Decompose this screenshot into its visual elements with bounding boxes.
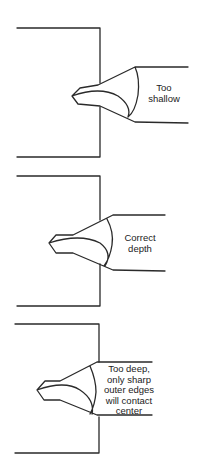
workpiece-outline (15, 417, 99, 453)
workpiece-outline (17, 264, 100, 306)
label-line: Correct (118, 233, 162, 244)
label-correct-depth: Correct depth (118, 233, 162, 254)
label-line: Too deep, (100, 364, 158, 375)
label-line: Too (145, 83, 183, 94)
workpiece-outline (15, 324, 99, 362)
workpiece-outline (17, 176, 100, 220)
label-line: shallow (145, 94, 183, 105)
workpiece-outline (17, 28, 100, 83)
label-line: depth (118, 244, 162, 255)
label-line: center (100, 406, 158, 417)
workpiece-outline (17, 107, 100, 157)
label-too-deep: Too deep, only sharp outer edges will co… (100, 364, 158, 417)
label-line: outer edges (100, 385, 158, 396)
label-too-shallow: Too shallow (145, 83, 183, 104)
